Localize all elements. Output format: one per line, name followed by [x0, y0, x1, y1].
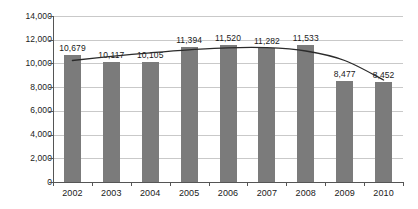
x-tick-mark — [364, 182, 365, 186]
y-axis-line — [53, 16, 54, 183]
x-tick-mark — [403, 182, 404, 186]
y-axis-labels: 14,00012,00010,0008,0006,0004,0002,0000 — [0, 0, 52, 209]
bar-2008 — [297, 45, 314, 182]
bar-value-label-2008: 11,533 — [286, 34, 326, 43]
y-axis-tick-label: 0 — [6, 178, 52, 187]
y-axis-tick-label: 8,000 — [6, 83, 52, 92]
x-tick-mark — [131, 182, 132, 186]
gridline-0 — [53, 182, 403, 183]
y-axis-tick-label: 6,000 — [6, 106, 52, 115]
x-tick-mark — [286, 182, 287, 186]
bar-chart: 14,00012,00010,0008,0006,0004,0002,0000 … — [0, 0, 418, 209]
bar-2010 — [375, 82, 392, 182]
bar-2009 — [336, 81, 353, 182]
bar-value-label-2006: 11,520 — [208, 34, 248, 43]
x-tick-mark — [53, 182, 54, 186]
y-axis-tick-label: 14,000 — [6, 12, 52, 21]
x-tick-mark — [209, 182, 210, 186]
x-axis-label-2008: 2008 — [286, 188, 326, 198]
bar-2004 — [142, 62, 159, 182]
bar-2002 — [64, 55, 81, 182]
x-tick-mark — [247, 182, 248, 186]
y-axis-tick-label: 12,000 — [6, 35, 52, 44]
x-axis-label-2010: 2010 — [364, 188, 404, 198]
trend-line — [0, 0, 418, 209]
x-axis-label-2004: 2004 — [130, 188, 170, 198]
y-axis-tick-label: 10,000 — [6, 59, 52, 68]
x-tick-mark — [170, 182, 171, 186]
bar-value-label-2005: 11,394 — [169, 36, 209, 45]
bar-value-label-2004: 10,105 — [130, 51, 170, 60]
bar-2005 — [181, 47, 198, 182]
x-tick-mark — [325, 182, 326, 186]
x-axis-label-2005: 2005 — [169, 188, 209, 198]
bar-2007 — [258, 48, 275, 182]
gridline-14000 — [53, 16, 403, 17]
y-axis-tick-label: 4,000 — [6, 130, 52, 139]
bar-2006 — [220, 45, 237, 182]
x-axis-label-2006: 2006 — [208, 188, 248, 198]
x-axis-label-2007: 2007 — [247, 188, 287, 198]
y-axis-tick-label: 2,000 — [6, 154, 52, 163]
bar-value-label-2002: 10,679 — [52, 44, 92, 53]
x-tick-mark — [92, 182, 93, 186]
bar-value-label-2007: 11,282 — [247, 37, 287, 46]
bar-value-label-2010: 8,452 — [364, 71, 404, 80]
x-axis-label-2002: 2002 — [52, 188, 92, 198]
x-axis-label-2003: 2003 — [91, 188, 131, 198]
bar-2003 — [103, 62, 120, 182]
bar-value-label-2009: 8,477 — [325, 70, 365, 79]
bar-value-label-2003: 10,117 — [91, 51, 131, 60]
x-axis-label-2009: 2009 — [325, 188, 365, 198]
